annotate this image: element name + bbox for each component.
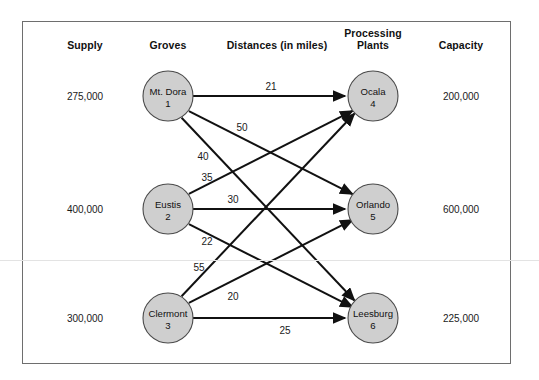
- node-clermont-name: Clermont: [149, 308, 188, 319]
- node-clermont-number: 3: [165, 320, 170, 331]
- node-clermont[interactable]: Clermont 3: [143, 293, 193, 343]
- node-orlando-number: 5: [370, 211, 375, 222]
- header-capacity: Capacity: [419, 40, 503, 52]
- edge-label-eustis-leesburg: 22: [201, 236, 213, 247]
- header-distances: Distances (in miles): [213, 40, 341, 52]
- network-diagram-page: Supply Groves Distances (in miles) Proce…: [0, 0, 539, 380]
- node-leesburg-name: Leesburg: [353, 308, 393, 319]
- node-eustis-name: Eustis: [155, 199, 181, 210]
- header-processing-plants-line2: Plants: [333, 40, 413, 52]
- scan-artifact-line: [0, 260, 539, 261]
- capacity-value-ocala: 200,000: [419, 91, 503, 102]
- edge-label-clermont-orlando: 20: [227, 291, 239, 302]
- edge-eustis-leesburg: [189, 224, 353, 307]
- supply-value-clermont: 300,000: [42, 313, 128, 324]
- node-eustis[interactable]: Eustis 2: [143, 184, 193, 234]
- edge-label-mt-dora-leesburg: 40: [197, 151, 209, 162]
- edge-label-eustis-ocala: 35: [201, 172, 213, 183]
- edge-label-eustis-orlando: 30: [227, 194, 239, 205]
- edge-label-clermont-ocala: 55: [193, 262, 205, 273]
- node-leesburg[interactable]: Leesburg 6: [348, 293, 398, 343]
- edge-label-clermont-leesburg: 25: [279, 325, 291, 336]
- edge-clermont-ocala: [182, 114, 355, 297]
- capacity-value-orlando: 600,000: [419, 204, 503, 215]
- edge-label-mt-dora-ocala: 21: [265, 81, 277, 92]
- node-mt-dora-number: 1: [165, 98, 170, 109]
- node-eustis-number: 2: [165, 211, 170, 222]
- node-ocala[interactable]: Ocala 4: [348, 71, 398, 121]
- edge-label-mt-dora-orlando: 50: [236, 122, 248, 133]
- capacity-value-leesburg: 225,000: [419, 313, 503, 324]
- supply-value-eustis: 400,000: [42, 204, 128, 215]
- supply-value-mt-dora: 275,000: [42, 91, 128, 102]
- node-mt-dora-name: Mt. Dora: [150, 86, 187, 97]
- node-orlando[interactable]: Orlando 5: [348, 184, 398, 234]
- node-leesburg-number: 6: [370, 320, 375, 331]
- node-orlando-name: Orlando: [356, 199, 390, 210]
- node-mt-dora[interactable]: Mt. Dora 1: [143, 71, 193, 121]
- header-processing-plants-line1: Processing: [333, 28, 413, 40]
- node-ocala-name: Ocala: [360, 86, 386, 97]
- header-supply: Supply: [42, 40, 128, 52]
- header-groves: Groves: [128, 40, 208, 52]
- node-ocala-number: 4: [370, 98, 376, 109]
